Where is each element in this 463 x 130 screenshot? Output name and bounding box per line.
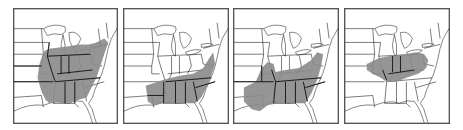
map-panel-1 <box>13 8 118 124</box>
map-eastern-us-3 <box>234 9 338 123</box>
map-eastern-us-2 <box>124 9 228 123</box>
map-panel-2 <box>123 8 229 124</box>
map-eastern-us-4 <box>345 9 449 123</box>
map-eastern-us-1 <box>14 9 117 123</box>
map-panel-3 <box>233 8 339 124</box>
map-panel-4 <box>344 8 450 124</box>
